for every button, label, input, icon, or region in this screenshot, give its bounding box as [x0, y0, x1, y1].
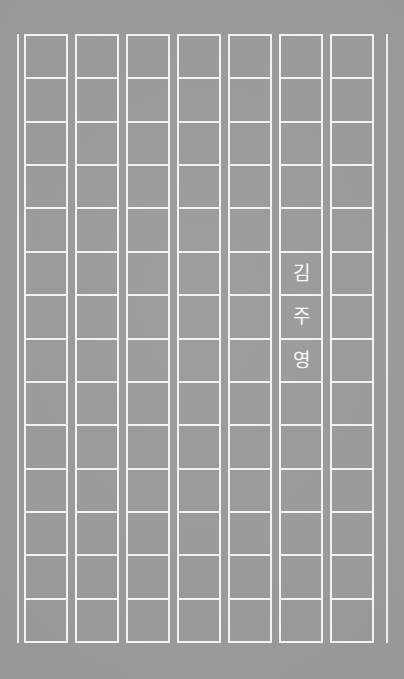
manuscript-cell — [230, 381, 270, 424]
manuscript-cell — [77, 164, 117, 207]
manuscript-cell — [128, 424, 168, 467]
manuscript-cell — [26, 164, 66, 207]
manuscript-cell: 김 — [281, 251, 321, 294]
author-name-character: 주 — [293, 307, 310, 326]
manuscript-cell — [128, 294, 168, 337]
manuscript-cell — [77, 121, 117, 164]
manuscript-cell — [281, 381, 321, 424]
manuscript-cell — [332, 207, 372, 250]
manuscript-cell — [332, 554, 372, 597]
manuscript-cell — [128, 468, 168, 511]
manuscript-cell — [77, 338, 117, 381]
manuscript-cell — [77, 207, 117, 250]
manuscript-cell — [281, 36, 321, 77]
manuscript-column-1 — [24, 34, 68, 643]
manuscript-cell — [281, 598, 321, 641]
manuscript-cell — [281, 77, 321, 120]
manuscript-cell — [230, 121, 270, 164]
manuscript-cell — [332, 381, 372, 424]
manuscript-cell — [179, 598, 219, 641]
manuscript-cell — [179, 294, 219, 337]
manuscript-cell — [332, 424, 372, 467]
manuscript-cell — [230, 77, 270, 120]
manuscript-cell — [332, 164, 372, 207]
manuscript-cell — [128, 381, 168, 424]
manuscript-cell — [128, 207, 168, 250]
manuscript-cell — [281, 554, 321, 597]
manuscript-cell — [77, 77, 117, 120]
manuscript-cell — [281, 424, 321, 467]
manuscript-cell — [332, 251, 372, 294]
manuscript-cell — [179, 36, 219, 77]
manuscript-cell — [230, 207, 270, 250]
manuscript-cell — [128, 121, 168, 164]
manuscript-cell — [26, 554, 66, 597]
manuscript-column-5 — [228, 34, 272, 643]
manuscript-cell — [26, 36, 66, 77]
manuscript-cell — [77, 381, 117, 424]
manuscript-column-6: 김주영 — [279, 34, 323, 643]
manuscript-cell — [230, 424, 270, 467]
manuscript-cell — [128, 251, 168, 294]
manuscript-cell — [179, 164, 219, 207]
manuscript-cell — [281, 121, 321, 164]
manuscript-cell — [230, 164, 270, 207]
manuscript-cell — [128, 164, 168, 207]
author-name-character: 영 — [293, 351, 310, 370]
manuscript-cell — [332, 598, 372, 641]
manuscript-cell — [281, 468, 321, 511]
manuscript-cell — [77, 251, 117, 294]
manuscript-cell — [26, 381, 66, 424]
manuscript-cell — [77, 294, 117, 337]
manuscript-cell — [230, 251, 270, 294]
manuscript-cell — [332, 468, 372, 511]
left-edge-rule — [17, 34, 19, 643]
manuscript-cell — [26, 121, 66, 164]
manuscript-cell — [128, 598, 168, 641]
manuscript-cell — [230, 468, 270, 511]
manuscript-cell — [179, 381, 219, 424]
manuscript-cell — [77, 554, 117, 597]
manuscript-cell — [77, 598, 117, 641]
manuscript-cell: 영 — [281, 338, 321, 381]
manuscript-cell — [230, 294, 270, 337]
manuscript-cell — [77, 511, 117, 554]
manuscript-cell — [128, 554, 168, 597]
manuscript-cell — [77, 424, 117, 467]
manuscript-column-7 — [330, 34, 374, 643]
manuscript-cell — [26, 511, 66, 554]
manuscript-cell — [179, 207, 219, 250]
manuscript-cell: 주 — [281, 294, 321, 337]
manuscript-column-4 — [177, 34, 221, 643]
manuscript-cell — [332, 77, 372, 120]
manuscript-cell — [332, 121, 372, 164]
manuscript-cell — [230, 554, 270, 597]
manuscript-cell — [26, 468, 66, 511]
manuscript-column-2 — [75, 34, 119, 643]
manuscript-cell — [179, 468, 219, 511]
manuscript-cell — [332, 36, 372, 77]
manuscript-page: 김주영 — [0, 0, 404, 679]
manuscript-column-3 — [126, 34, 170, 643]
manuscript-cell — [281, 207, 321, 250]
manuscript-cell — [281, 511, 321, 554]
manuscript-cell — [179, 554, 219, 597]
manuscript-cell — [230, 511, 270, 554]
manuscript-cell — [26, 338, 66, 381]
manuscript-cell — [179, 251, 219, 294]
manuscript-cell — [179, 424, 219, 467]
manuscript-cell — [26, 251, 66, 294]
manuscript-cell — [281, 164, 321, 207]
manuscript-cell — [230, 36, 270, 77]
manuscript-cell — [26, 207, 66, 250]
manuscript-cell — [26, 294, 66, 337]
manuscript-cell — [179, 77, 219, 120]
manuscript-cell — [128, 511, 168, 554]
author-name-character: 김 — [293, 264, 310, 283]
manuscript-cell — [77, 468, 117, 511]
manuscript-cell — [179, 511, 219, 554]
manuscript-cell — [128, 36, 168, 77]
manuscript-cell — [332, 294, 372, 337]
right-edge-rule — [386, 34, 388, 643]
manuscript-cell — [230, 598, 270, 641]
